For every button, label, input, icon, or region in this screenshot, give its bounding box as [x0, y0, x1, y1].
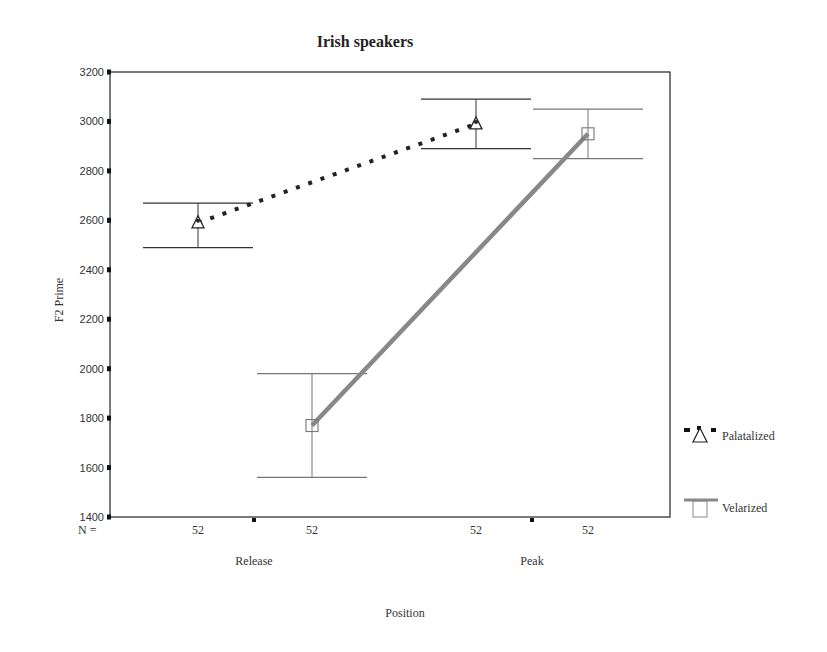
n-count: 52: [306, 523, 318, 537]
x-category-label: Peak: [520, 554, 543, 568]
legend-dash: [684, 428, 690, 432]
legend-dash: [711, 428, 716, 432]
y-tick-label: 2200: [80, 313, 104, 325]
marker-dot: [196, 219, 200, 223]
y-tick-mark: [107, 515, 111, 520]
y-tick-label: 3000: [80, 115, 104, 127]
n-count: 52: [192, 523, 204, 537]
y-tick-mark: [107, 168, 111, 173]
legend-label-velarized: Velarized: [722, 501, 767, 515]
chart: Irish speakers14001600180020002200240026…: [0, 0, 827, 652]
legend-label-palatalized: Palatalized: [722, 429, 775, 443]
y-tick-label: 2800: [80, 165, 104, 177]
y-tick-mark: [107, 119, 111, 124]
legend-square-icon: [693, 501, 707, 517]
series-line-palatalized: [198, 124, 476, 223]
y-tick-mark: [107, 416, 111, 421]
series-line-velarized: [312, 134, 588, 426]
y-axis-label: F2 Prime: [52, 278, 66, 322]
y-tick-mark: [107, 366, 111, 371]
y-tick-label: 2000: [80, 363, 104, 375]
chart-title: Irish speakers: [317, 33, 413, 51]
y-tick-label: 1800: [80, 412, 104, 424]
marker-dot: [474, 120, 478, 124]
n-count: 52: [470, 523, 482, 537]
x-category-label: Release: [235, 554, 272, 568]
y-tick-label: 1400: [80, 511, 104, 523]
x-tick-mark: [252, 518, 256, 522]
y-tick-label: 2600: [80, 214, 104, 226]
y-tick-label: 3200: [80, 66, 104, 78]
y-tick-mark: [107, 317, 111, 322]
y-tick-mark: [107, 267, 111, 272]
legend-triangle-icon: [693, 428, 707, 442]
y-tick-mark: [107, 70, 111, 75]
x-axis-label: Position: [385, 606, 424, 620]
y-tick-label: 2400: [80, 264, 104, 276]
y-tick-mark: [107, 465, 111, 470]
x-tick-mark: [530, 518, 534, 522]
n-count: 52: [582, 523, 594, 537]
y-tick-label: 1600: [80, 462, 104, 474]
n-label: N =: [78, 523, 97, 537]
y-tick-mark: [107, 218, 111, 223]
